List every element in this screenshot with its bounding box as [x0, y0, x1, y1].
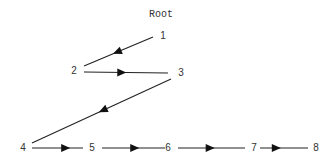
- node-4: 4: [20, 142, 26, 153]
- arrow-icon-2-to-3: [117, 68, 126, 76]
- edges-group: [32, 37, 308, 152]
- linked-list-diagram: Root 12345678: [0, 0, 336, 163]
- node-3: 3: [178, 67, 184, 78]
- node-7: 7: [251, 142, 257, 153]
- node-2: 2: [71, 65, 77, 76]
- node-1: 1: [160, 30, 166, 41]
- arrow-icon-7-to-8: [272, 144, 281, 152]
- node-8: 8: [313, 142, 319, 153]
- arrow-icon-6-to-7: [206, 144, 215, 152]
- arrow-icon-4-to-5: [61, 144, 70, 152]
- nodes-group: 12345678: [20, 30, 319, 153]
- node-5: 5: [89, 142, 95, 153]
- node-6: 6: [165, 142, 171, 153]
- root-label: Root: [149, 9, 173, 20]
- arrow-icon-5-to-6: [130, 144, 139, 152]
